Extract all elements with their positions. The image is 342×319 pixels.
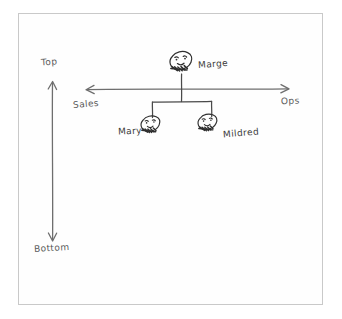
vertical-axis-arrow (48, 82, 56, 242)
diagram-strokes (0, 0, 342, 319)
diagram-canvas: Top Bottom Sales Ops Marge Mary Mildred (0, 0, 342, 319)
face-icon-mildred (198, 114, 217, 131)
axis-label-top: Top (41, 56, 58, 67)
axis-label-ops: Ops (281, 96, 300, 107)
tree-connectors (152, 74, 211, 118)
face-icon-marge (170, 51, 192, 71)
horizontal-axis-arrow (86, 85, 289, 94)
axis-label-bottom: Bottom (34, 242, 70, 254)
face-icon-mary (141, 116, 160, 133)
node-label-marge: Marge (198, 58, 229, 70)
node-label-mary: Mary (118, 125, 142, 136)
